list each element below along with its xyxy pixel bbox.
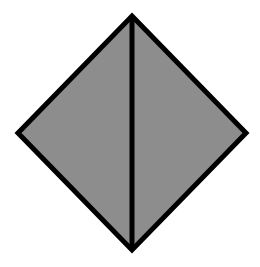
diamond-diagram [0,0,260,267]
right-triangle [132,16,246,250]
left-triangle [18,16,132,250]
